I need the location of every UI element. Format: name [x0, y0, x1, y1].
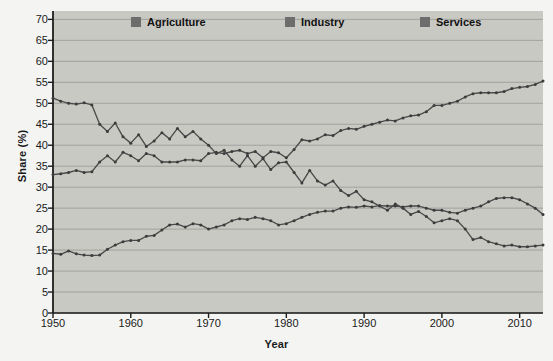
data-point	[300, 181, 303, 184]
data-point	[176, 223, 179, 226]
chart-figure: 0510152025303540455055606570 19501960197…	[0, 0, 553, 361]
data-point	[363, 205, 366, 208]
data-point	[285, 156, 288, 159]
data-point	[464, 228, 467, 231]
data-point	[168, 223, 171, 226]
data-point	[230, 150, 233, 153]
data-point	[59, 172, 62, 175]
data-point	[308, 169, 311, 172]
data-point	[495, 242, 498, 245]
data-point	[254, 216, 257, 219]
data-point	[518, 198, 521, 201]
data-point	[472, 92, 475, 95]
data-point	[199, 137, 202, 140]
data-point	[487, 200, 490, 203]
data-point	[67, 171, 70, 174]
data-point	[199, 159, 202, 162]
data-point	[285, 222, 288, 225]
legend-swatch-icon	[420, 17, 430, 27]
data-point	[238, 149, 241, 152]
data-point	[215, 151, 218, 154]
data-point	[518, 86, 521, 89]
x-axis-tick-labels: 1950196019701980199020002010	[0, 313, 553, 337]
data-point	[230, 219, 233, 222]
data-point	[542, 244, 545, 247]
data-point	[425, 215, 428, 218]
data-point	[223, 152, 226, 155]
data-point	[440, 104, 443, 107]
data-point	[300, 138, 303, 141]
data-point	[464, 95, 467, 98]
x-axis-title: Year	[0, 338, 553, 350]
data-point	[293, 148, 296, 151]
data-point	[98, 254, 101, 257]
data-point	[83, 171, 86, 174]
y-tick-label: 20	[22, 223, 48, 235]
data-point	[75, 252, 78, 255]
data-point	[316, 211, 319, 214]
data-point	[324, 133, 327, 136]
data-point	[332, 210, 335, 213]
data-point	[52, 97, 55, 100]
data-point	[503, 196, 506, 199]
data-point	[83, 254, 86, 257]
data-point	[402, 116, 405, 119]
data-point	[386, 119, 389, 122]
data-point	[503, 90, 506, 93]
data-point	[137, 133, 140, 136]
data-point	[176, 127, 179, 130]
data-point	[269, 150, 272, 153]
x-tick-label: 1990	[342, 317, 386, 329]
data-point	[440, 209, 443, 212]
data-point	[409, 114, 412, 117]
data-point	[246, 218, 249, 221]
legend-item-services[interactable]: Services	[420, 16, 481, 28]
legend-label: Agriculture	[147, 16, 206, 28]
legend-label: Services	[436, 16, 481, 28]
data-point	[417, 114, 420, 117]
data-point	[184, 226, 187, 229]
data-point	[534, 244, 537, 247]
data-point	[230, 158, 233, 161]
data-point	[192, 222, 195, 225]
data-point	[370, 205, 373, 208]
data-point	[386, 209, 389, 212]
data-point	[440, 219, 443, 222]
y-tick-label: 5	[22, 286, 48, 298]
data-point	[526, 85, 529, 88]
data-point	[106, 248, 109, 251]
data-point	[472, 207, 475, 210]
x-tick-label: 2000	[420, 317, 464, 329]
data-point	[433, 104, 436, 107]
data-point	[332, 134, 335, 137]
x-tick-label: 1960	[109, 317, 153, 329]
data-point	[137, 239, 140, 242]
data-point	[495, 197, 498, 200]
data-point	[122, 151, 125, 154]
legend-item-agriculture[interactable]: Agriculture	[131, 16, 206, 28]
data-point	[293, 219, 296, 222]
legend-swatch-icon	[131, 17, 141, 27]
data-point	[254, 150, 257, 153]
data-point	[370, 123, 373, 126]
x-tick-label: 1980	[264, 317, 308, 329]
data-point	[378, 204, 381, 207]
data-point	[534, 207, 537, 210]
data-point	[90, 254, 93, 257]
legend-item-industry[interactable]: Industry	[285, 16, 344, 28]
data-point	[192, 130, 195, 133]
data-point	[98, 123, 101, 126]
data-point	[363, 198, 366, 201]
data-point	[153, 234, 156, 237]
data-point	[308, 140, 311, 143]
data-point	[487, 91, 490, 94]
data-point	[339, 189, 342, 192]
data-point	[145, 145, 148, 148]
data-point	[262, 156, 265, 159]
y-tick-label: 65	[22, 34, 48, 46]
data-point	[355, 190, 358, 193]
data-point	[277, 223, 280, 226]
data-point	[83, 101, 86, 104]
data-point	[184, 158, 187, 161]
data-point	[487, 240, 490, 243]
